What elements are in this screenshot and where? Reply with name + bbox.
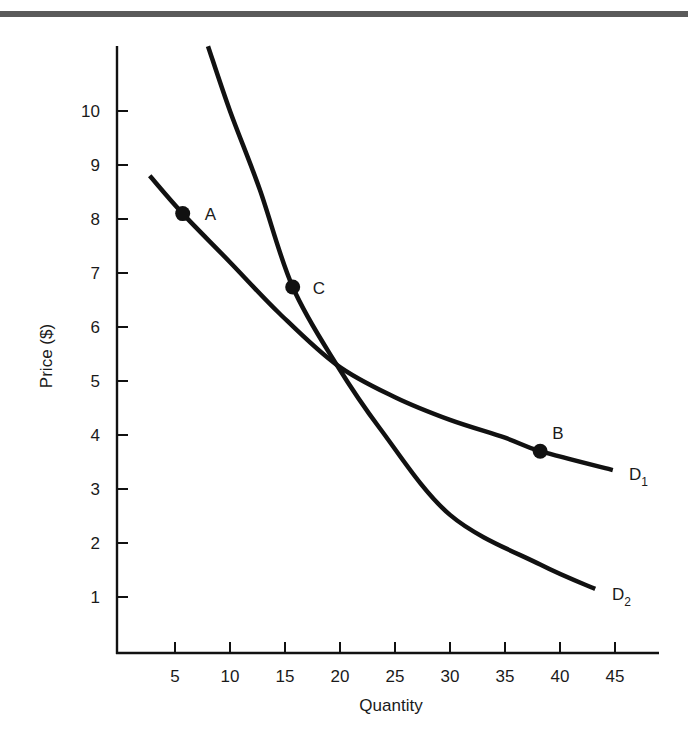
point-b: [533, 444, 548, 459]
curve-d2: [208, 46, 595, 589]
x-tick-label: 20: [331, 667, 350, 686]
data-points: ABC: [175, 205, 563, 459]
x-axis-title: Quantity: [359, 696, 423, 715]
curve-label-d1: D1: [629, 465, 648, 489]
y-tick-label: 4: [91, 426, 100, 445]
x-tick-label: 10: [221, 667, 240, 686]
x-tick-label: 30: [441, 667, 460, 686]
x-tick-label: 25: [386, 667, 405, 686]
x-tick-label: 45: [606, 667, 625, 686]
y-tick-label: 2: [91, 534, 100, 553]
x-tick-label: 15: [276, 667, 295, 686]
x-tick-label: 35: [496, 667, 515, 686]
point-label-c: C: [313, 279, 325, 298]
demand-curves-chart: 1234567891051015202530354045 D1D2 ABC Qu…: [0, 0, 688, 729]
curve-label-d2: D2: [612, 585, 631, 609]
y-tick-label: 10: [81, 102, 100, 121]
point-c: [285, 280, 300, 295]
y-axis-title: Price ($): [37, 324, 56, 388]
y-tick-label: 8: [91, 210, 100, 229]
axes: 1234567891051015202530354045: [81, 46, 659, 686]
y-tick-label: 3: [91, 480, 100, 499]
point-label-b: B: [552, 424, 563, 443]
x-tick-label: 40: [551, 667, 570, 686]
x-tick-label: 5: [170, 667, 179, 686]
curve-d1: [150, 176, 613, 470]
point-label-a: A: [205, 205, 217, 224]
curves: D1D2: [150, 46, 649, 609]
y-tick-label: 9: [91, 156, 100, 175]
y-tick-label: 6: [91, 318, 100, 337]
point-a: [175, 206, 190, 221]
y-tick-label: 5: [91, 372, 100, 391]
y-tick-label: 1: [91, 588, 100, 607]
y-tick-label: 7: [91, 264, 100, 283]
